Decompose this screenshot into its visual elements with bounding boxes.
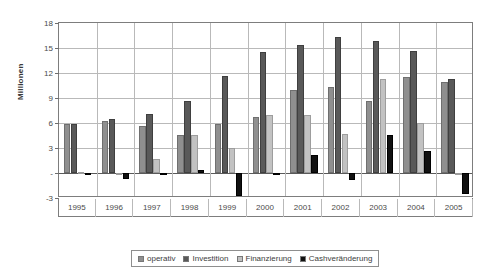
y-axis-title: Millionen [14,20,28,100]
bar-investition-1996 [109,119,115,173]
bar-operativ-1997 [139,126,145,174]
bar-finanzierung-2000 [266,115,272,173]
bar-group [248,23,286,196]
bar-cashveränderung-1996 [123,173,129,179]
bar-operativ-1998 [177,135,183,173]
bar-investition-2002 [335,37,341,173]
y-axis-tick-label: 15 [31,44,53,53]
category-label: 2001 [284,203,321,212]
bar-investition-2005 [448,79,454,173]
bar-finanzierung-2002 [342,134,348,173]
bar-investition-2001 [297,45,303,173]
category-label: 1995 [59,203,95,212]
bar-investition-1997 [146,114,152,173]
y-axis-tick-label: 3 [31,144,53,153]
y-axis-tick-label: 18 [31,19,53,28]
bar-cashveränderung-2004 [424,151,430,174]
category-band: 1997 [133,199,171,217]
category-band: 1995 [58,199,96,217]
legend-item[interactable]: Finanzierung [237,254,292,263]
bar-cashveränderung-1995 [85,173,91,175]
bar-finanzierung-1998 [191,135,197,173]
category-band: 2003 [360,199,398,217]
bar-investition-1995 [71,124,77,173]
bar-finanzierung-2001 [304,115,310,173]
bar-group [210,23,248,196]
bar-cashveränderung-2000 [273,173,279,175]
category-band: 2002 [322,199,360,217]
bar-finanzierung-1996 [116,173,122,175]
category-axis-labels: 1995199619971998199920002001200220032004… [58,199,473,217]
category-band: 1999 [209,199,247,217]
bar-cashveränderung-1999 [236,173,242,196]
bar-operativ-1999 [215,124,221,173]
category-label: 1998 [171,203,208,212]
legend-swatch-icon [237,256,243,262]
bar-group [436,23,474,196]
category-label: 2003 [360,203,397,212]
chart-legend: operativInvestitionFinanzierungCashverän… [131,250,379,267]
category-band: 2005 [435,199,473,217]
category-label: 2002 [322,203,359,212]
category-band: 2001 [284,199,322,217]
bar-finanzierung-2003 [380,79,386,173]
category-band: 1996 [96,199,134,217]
category-band: 2004 [398,199,436,217]
bar-cashveränderung-2003 [387,135,393,173]
y-axis-tick-label: 9 [31,94,53,103]
bar-finanzierung-2005 [455,173,461,175]
legend-label: Finanzierung [246,254,292,263]
legend-swatch-icon [138,256,144,262]
category-label: 2005 [435,203,472,212]
bar-group [361,23,399,196]
bar-operativ-2000 [253,117,259,173]
legend-label: Investition [192,254,228,263]
category-label: 1996 [96,203,133,212]
bar-operativ-1995 [64,124,70,173]
bar-investition-2003 [373,41,379,174]
bar-group [172,23,210,196]
bar-cashveränderung-1998 [198,170,204,173]
legend-label: Cashveränderung [309,254,373,263]
category-label: 2000 [247,203,284,212]
category-label: 1999 [209,203,246,212]
bar-operativ-2002 [328,87,334,173]
bar-cashveränderung-2002 [349,173,355,180]
legend-item[interactable]: Cashveränderung [300,254,373,263]
category-band: 2000 [247,199,285,217]
category-label: 1997 [133,203,170,212]
bar-finanzierung-1997 [153,159,159,173]
bar-investition-2000 [260,52,266,173]
bar-operativ-2001 [290,90,296,173]
legend-item[interactable]: operativ [138,254,175,263]
bar-group [323,23,361,196]
bar-operativ-2003 [366,101,372,173]
bar-operativ-1996 [102,121,108,173]
category-label: 2004 [398,203,435,212]
y-axis-tick-label: - [31,169,53,178]
bar-group [134,23,172,196]
y-axis-tick-label: -3 [31,194,53,203]
bar-cashveränderung-2001 [311,155,317,173]
legend-item[interactable]: Investition [183,254,228,263]
y-axis-tick-label: 6 [31,119,53,128]
bar-investition-1998 [184,101,190,173]
bar-group [285,23,323,196]
bar-group [399,23,437,196]
plot-area: 181512963--3 [58,22,473,197]
category-band: 1998 [171,199,209,217]
bar-investition-2004 [410,51,416,174]
legend-label: operativ [147,254,175,263]
bar-chart: Millionen 181512963--3 19951996199719981… [0,0,482,280]
legend-swatch-icon [183,256,189,262]
bar-finanzierung-2004 [417,123,423,173]
bar-operativ-2005 [441,82,447,173]
bar-cashveränderung-2005 [462,173,468,194]
bar-finanzierung-1995 [78,172,84,174]
bar-group [97,23,135,196]
legend-swatch-icon [300,256,306,262]
bar-finanzierung-1999 [229,148,235,173]
bar-investition-1999 [222,76,228,174]
y-axis-tick-label: 12 [31,69,53,78]
bar-operativ-2004 [403,77,409,173]
